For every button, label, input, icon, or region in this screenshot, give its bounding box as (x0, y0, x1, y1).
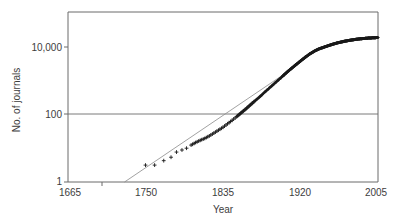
y-axis-title: No. of journals (11, 68, 22, 132)
plot-background (68, 12, 378, 182)
x-tick-label-1665: 1665 (59, 187, 82, 198)
journals-growth-chart: 1 100 10,000 1665 1750 1835 1920 2005 Ye… (0, 0, 403, 222)
y-tick-label-100: 100 (45, 109, 62, 120)
chart-svg: 1 100 10,000 1665 1750 1835 1920 2005 Ye… (0, 0, 403, 222)
x-axis-title: Year (213, 204, 234, 215)
x-tick-label-2005: 2005 (365, 187, 388, 198)
y-tick-label-1: 1 (56, 176, 62, 187)
y-tick-label-10000: 10,000 (31, 42, 62, 53)
x-tick-label-1920: 1920 (289, 187, 312, 198)
x-tick-label-1750: 1750 (135, 187, 158, 198)
x-tick-label-1835: 1835 (212, 187, 235, 198)
